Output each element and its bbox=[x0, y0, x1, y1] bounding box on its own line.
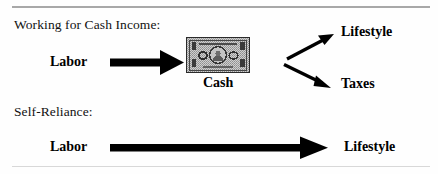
arrow-labor-to-cash bbox=[110, 50, 184, 75]
arrow-labor-to-lifestyle bbox=[110, 137, 328, 160]
top-divider-rule bbox=[12, 6, 430, 8]
dollar-bill-icon bbox=[186, 37, 250, 73]
node-label-lifestyle-self-reliance-path: Lifestyle bbox=[344, 139, 395, 155]
arrow-cash-to-taxes bbox=[284, 65, 331, 89]
node-label-labor-self-reliance-path: Labor bbox=[50, 139, 87, 155]
arrow-cash-to-lifestyle bbox=[287, 34, 334, 59]
node-label-labor-cash-path: Labor bbox=[50, 54, 87, 70]
node-label-cash: Cash bbox=[203, 75, 233, 91]
node-label-lifestyle-cash-path: Lifestyle bbox=[341, 24, 392, 40]
section-caption-working-for-cash-income: Working for Cash Income: bbox=[14, 17, 160, 33]
section-caption-self-reliance: Self-Reliance: bbox=[14, 104, 93, 120]
diagram-figure: Working for Cash Income: Self-Reliance: … bbox=[0, 0, 438, 174]
node-label-taxes: Taxes bbox=[341, 76, 375, 92]
bottom-divider-rule bbox=[12, 166, 430, 167]
